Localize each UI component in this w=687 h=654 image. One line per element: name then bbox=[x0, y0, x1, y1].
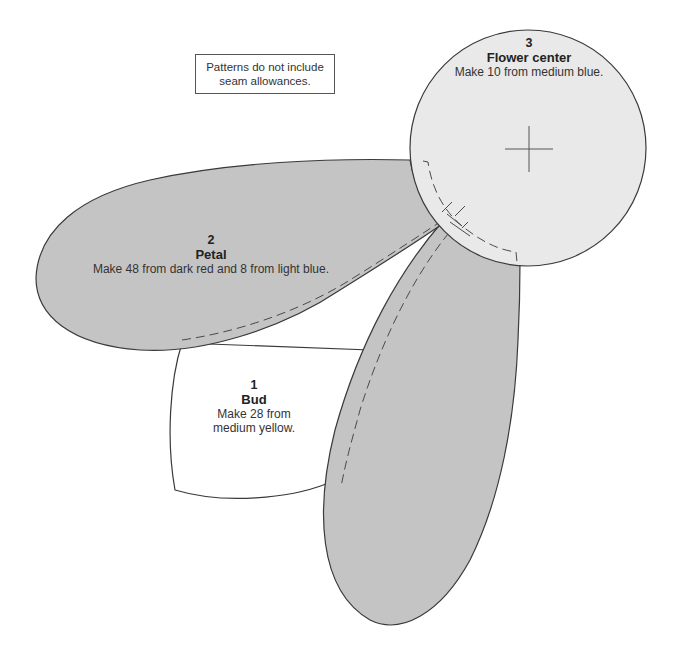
piece-name: Petal bbox=[93, 247, 329, 262]
pattern-diagram bbox=[0, 0, 687, 654]
piece-instruction: Make 10 from medium blue. bbox=[455, 65, 604, 79]
flower-center-label: 3 Flower center Make 10 from medium blue… bbox=[455, 36, 604, 79]
piece-instruction-line-2: medium yellow. bbox=[213, 421, 295, 435]
petal-label: 2 Petal Make 48 from dark red and 8 from… bbox=[93, 233, 329, 276]
piece-number: 3 bbox=[455, 36, 604, 50]
seam-allowance-note: Patterns do not include seam allowances. bbox=[195, 54, 335, 94]
piece-number: 2 bbox=[93, 233, 329, 247]
piece-instruction-line-1: Make 28 from bbox=[213, 407, 295, 421]
bud-label: 1 Bud Make 28 from medium yellow. bbox=[213, 378, 295, 435]
note-line-1: Patterns do not include bbox=[206, 60, 324, 74]
note-line-2: seam allowances. bbox=[219, 74, 310, 88]
piece-instruction: Make 48 from dark red and 8 from light b… bbox=[93, 262, 329, 276]
piece-name: Flower center bbox=[455, 50, 604, 65]
piece-name: Bud bbox=[213, 392, 295, 407]
piece-number: 1 bbox=[213, 378, 295, 392]
